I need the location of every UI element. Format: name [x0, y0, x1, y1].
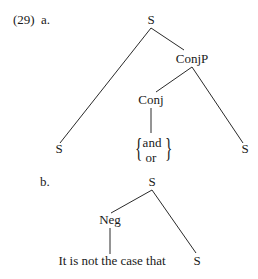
edge-conjp-conj	[156, 67, 192, 92]
edge-s-conjp	[151, 28, 184, 50]
edge-s-s	[152, 190, 196, 253]
tree-a-conjp: ConjP	[176, 52, 209, 66]
edge-s-neg	[111, 190, 152, 213]
tree-a-left-s: S	[55, 142, 62, 156]
tree-b-root-s: S	[148, 175, 155, 189]
tree-b-neg-text: It is not the case that	[58, 254, 165, 268]
left-brace-icon: {	[135, 134, 142, 162]
tree-b-neg: Neg	[99, 213, 121, 227]
edge-conjp-right-s	[192, 67, 243, 143]
tree-a-right-s: S	[241, 142, 248, 156]
conj-option-and: and	[143, 136, 162, 150]
tree-a-root-s: S	[147, 13, 154, 27]
tree-a-label: a.	[41, 13, 50, 27]
example-number: (29)	[13, 13, 35, 27]
edge-s-left-s	[60, 28, 151, 143]
tree-a-conj: Conj	[138, 93, 163, 107]
tree-edges	[0, 0, 258, 279]
tree-b-s: S	[193, 254, 200, 268]
conj-option-or: or	[146, 151, 157, 165]
tree-b-label: b.	[40, 175, 50, 189]
right-brace-icon: }	[165, 134, 172, 162]
